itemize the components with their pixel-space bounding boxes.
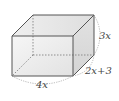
- front-face: [12, 36, 73, 76]
- cuboid-diagram: 3x 2x+3 4x: [0, 0, 119, 101]
- height-label: 3x: [99, 30, 111, 41]
- depth-label: 2x+3: [84, 65, 112, 76]
- width-label: 4x: [35, 79, 48, 90]
